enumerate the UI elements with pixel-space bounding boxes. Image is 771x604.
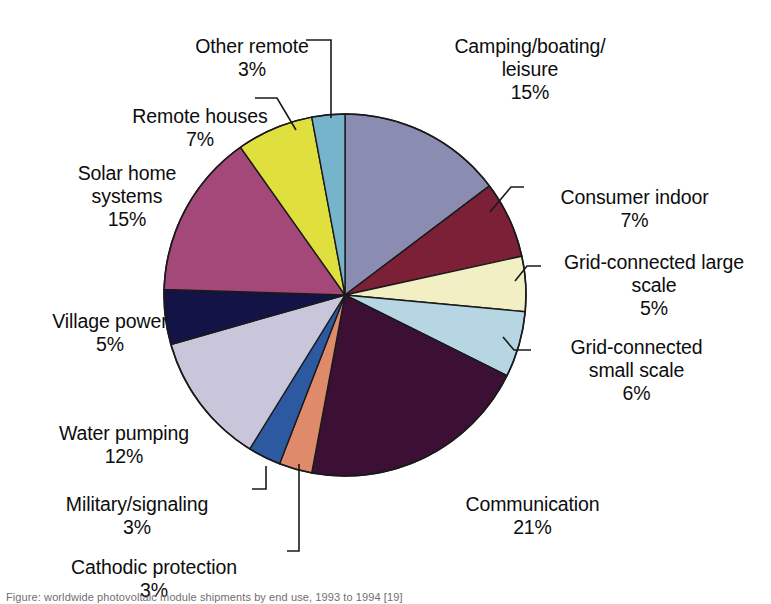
pie-label-village-power: Village power 5% [6,287,214,379]
pie-label-camping-boating-leisure: Camping/boating/ leisure 15% [420,12,640,127]
pie-label-camping-boating-leisure-value: 15% [420,81,640,104]
pie-label-consumer-indoor-name: Consumer indoor [560,186,708,208]
leader-line-military [252,466,266,489]
pie-label-other-remote-value: 3% [152,58,352,81]
pie-label-cathodic-protection-name: Cathodic protection [71,556,237,578]
pie-label-other-remote-name: Other remote [195,35,309,57]
pie-label-communication-value: 21% [420,516,645,539]
figure-caption: Figure: worldwide photovoltaic module sh… [6,591,606,604]
pie-label-village-power-name: Village power [52,310,167,332]
pie-label-grid-connected-small-scale-value: 6% [534,382,739,405]
pie-label-solar-home-systems: Solar home systems 15% [18,139,236,254]
pie-label-village-power-value: 5% [6,333,214,356]
pie-label-grid-connected-large-scale-name: Grid-connected large scale [564,251,744,296]
pie-label-water-pumping-value: 12% [20,445,228,468]
pie-label-grid-connected-small-scale-name: Grid-connected small scale [571,336,703,381]
leader-line-cathodic [287,464,299,551]
pie-label-solar-home-systems-value: 15% [18,208,236,231]
pie-label-solar-home-systems-name: Solar home systems [78,162,177,207]
pie-label-camping-boating-leisure-name: Camping/boating/ leisure [454,35,605,80]
pie-label-communication-name: Communication [465,493,599,515]
pie-label-remote-houses-name: Remote houses [132,105,267,127]
pie-label-military-signaling-name: Military/signaling [66,493,208,515]
pie-label-grid-connected-small-scale: Grid-connected small scale 6% [534,313,739,428]
pie-label-water-pumping-name: Water pumping [59,422,189,444]
pie-chart-figure: Other remote 3% Remote houses 7% Solar h… [0,0,771,604]
pie-label-communication: Communication 21% [420,470,645,562]
